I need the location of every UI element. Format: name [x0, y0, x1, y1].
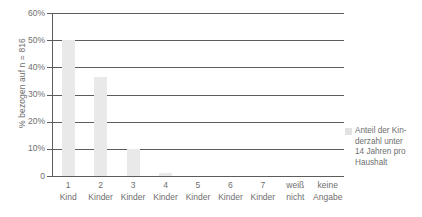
- y-axis-tick-label: 20%: [5, 117, 45, 126]
- x-axis-tick-label: keineAngabe: [312, 180, 344, 203]
- bar: [159, 173, 172, 176]
- y-axis-tick-label: 30%: [5, 90, 45, 99]
- x-axis-tick-label: 2Kinder: [84, 180, 116, 203]
- y-axis-tick: [47, 176, 52, 177]
- chart-legend: Anteil der Kin-derzahl unter14 Jahren pr…: [345, 126, 422, 168]
- x-axis-tick-label: 5Kinder: [182, 180, 214, 203]
- x-axis-tick-label: 7Kinder: [247, 180, 279, 203]
- bar: [94, 77, 107, 176]
- plot-area: [52, 13, 344, 176]
- y-axis-tick-label: 10%: [5, 144, 45, 153]
- legend-swatch-icon: [345, 128, 352, 135]
- bar-series: [52, 13, 344, 176]
- y-axis-tick-label: 50%: [5, 36, 45, 45]
- x-axis-tick-label: 1Kind: [52, 180, 84, 203]
- legend-item: Anteil der Kin-derzahl unter14 Jahren pr…: [345, 126, 422, 168]
- x-axis-tick-labels: 1Kind2Kinder3Kinder4Kinder5Kinder6Kinder…: [52, 180, 344, 214]
- y-axis-title: % bezogen auf n = 816: [17, 3, 27, 163]
- y-axis-tick-label: 0: [5, 172, 45, 181]
- legend-label: Anteil der Kin-derzahl unter14 Jahren pr…: [355, 126, 421, 168]
- gridline: [52, 176, 344, 177]
- bar-chart: % bezogen auf n = 816 010%20%30%40%50%60…: [0, 0, 422, 217]
- x-axis-tick-label: weißnicht: [279, 180, 311, 203]
- bar: [62, 40, 75, 176]
- x-axis-tick-label: 3Kinder: [117, 180, 149, 203]
- y-axis-tick-label: 60%: [5, 9, 45, 18]
- x-axis-tick-label: 6Kinder: [214, 180, 246, 203]
- y-axis-tick-label: 40%: [5, 63, 45, 72]
- bar: [127, 149, 140, 176]
- x-axis-tick-label: 4Kinder: [149, 180, 181, 203]
